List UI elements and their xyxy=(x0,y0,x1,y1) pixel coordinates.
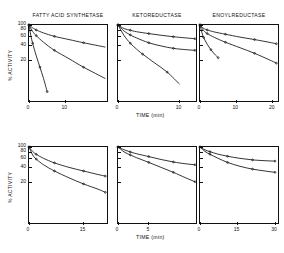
y-tick-label: 80 xyxy=(13,26,26,31)
curves-group xyxy=(118,147,198,225)
x-tick-label: 0 xyxy=(20,227,36,232)
y-tick-label: 40 xyxy=(13,42,26,47)
enzyme-inactivation-figure: 204060801000101 mM PHENYLGLYOXAL2 mM5 mM… xyxy=(0,0,284,253)
x-tick-label: 0 xyxy=(191,105,207,110)
x-tick-label: 10 xyxy=(56,105,72,110)
y-tick-label: 60 xyxy=(13,155,26,160)
y-tick-label: 80 xyxy=(13,148,26,153)
data-point xyxy=(194,164,196,166)
series-curve-0 xyxy=(29,25,105,47)
data-point xyxy=(104,191,106,193)
x-axis-title: TIME (min) xyxy=(136,235,165,240)
series-curve-0 xyxy=(200,147,275,161)
x-tick-label: 30 xyxy=(266,227,282,232)
plot-area xyxy=(117,146,197,224)
data-point xyxy=(274,171,276,173)
series-curve-1 xyxy=(29,147,105,192)
curves-group xyxy=(200,147,280,225)
y-tick-label: 40 xyxy=(13,164,26,169)
chart-panel-enoylreductase-phenylglyoxal: ENOYLREDUCTASE xyxy=(199,24,279,102)
x-tick-label: 15 xyxy=(229,227,245,232)
panel-title: KETOREDUCTASE xyxy=(117,13,197,18)
y-tick-label: 60 xyxy=(13,33,26,38)
chart-panel-enoylreductase-butanedione xyxy=(199,146,279,224)
curves-group xyxy=(29,147,109,225)
series-curve-1 xyxy=(200,25,276,63)
chart-panel-fas-phenylglyoxal: FATTY ACID SYNTHETASE xyxy=(28,24,108,102)
x-tick-label: 0 xyxy=(109,227,125,232)
x-tick-label: 15 xyxy=(75,227,91,232)
series-curve-0 xyxy=(29,147,105,176)
y-tick-label: 100 xyxy=(13,21,26,26)
plot-area xyxy=(28,146,108,224)
curves-group xyxy=(118,25,198,103)
y-tick-label: 20 xyxy=(13,57,26,62)
plot-area xyxy=(117,24,197,102)
series-curve-1 xyxy=(29,25,105,79)
x-tick-label: 10 xyxy=(171,105,187,110)
y-tick-label: 100 xyxy=(13,143,26,148)
chart-panel-ketoreductase-phenylglyoxal: KETOREDUCTASE xyxy=(117,24,197,102)
panel-title: FATTY ACID SYNTHETASE xyxy=(28,13,108,18)
curves-group xyxy=(200,25,280,103)
plot-area xyxy=(28,24,108,102)
x-tick-label: 0 xyxy=(109,105,125,110)
series-curve-0 xyxy=(200,25,276,44)
y-axis-title: % ACTIVITY xyxy=(8,172,13,203)
x-tick-label: 0 xyxy=(191,227,207,232)
x-tick-label: 0 xyxy=(20,105,36,110)
panel-title: ENOYLREDUCTASE xyxy=(199,13,279,18)
y-tick-label: 20 xyxy=(13,179,26,184)
plot-area xyxy=(199,24,279,102)
y-axis-title: % ACTIVITY xyxy=(8,50,13,81)
series-curve-0 xyxy=(118,25,195,39)
curves-group xyxy=(29,25,109,103)
x-tick-label: 5 xyxy=(140,227,156,232)
x-axis-title: TIME (min) xyxy=(136,113,165,118)
x-tick-label: 20 xyxy=(264,105,280,110)
chart-panel-fas-butanedione xyxy=(28,146,108,224)
x-tick-label: 10 xyxy=(227,105,243,110)
chart-panel-ketoreductase-butanedione xyxy=(117,146,197,224)
series-curve-2 xyxy=(29,25,47,92)
plot-area xyxy=(199,146,279,224)
series-curve-1 xyxy=(200,147,275,172)
